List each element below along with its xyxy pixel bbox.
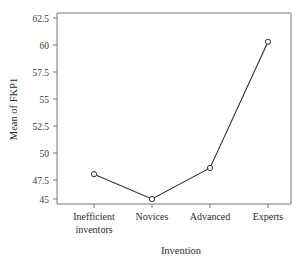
y-tick-label-2: 50 (40, 149, 50, 159)
x-tick-label-2: Advanced (190, 211, 231, 222)
x-tick-label-1: Novices (136, 211, 169, 222)
x-tick-label-3: Experts (253, 211, 284, 222)
data-point-2 (207, 165, 212, 170)
x-axis-tick-labels: Inefficient inventors Novices Advanced E… (73, 211, 283, 235)
y-axis-title: Mean of FKP1 (8, 78, 19, 140)
x-tick-label-0-line-1: inventors (75, 224, 112, 235)
y-axis-tick-labels: 62.5 60 57.5 55 52.5 50 47.5 45 (32, 14, 49, 205)
series-markers (91, 39, 270, 201)
y-tick-label-0: 45 (40, 195, 50, 205)
x-axis-title: Invention (161, 245, 202, 256)
y-tick-label-7: 62.5 (32, 14, 49, 24)
chart-figure: 62.5 60 57.5 55 52.5 50 47.5 45 Mean of … (0, 0, 305, 263)
data-series-mean-of-fkp1 (91, 39, 270, 201)
data-point-3 (265, 39, 270, 44)
x-axis-ticks (94, 204, 268, 208)
series-line (94, 42, 268, 199)
y-tick-label-5: 57.5 (32, 68, 49, 78)
y-tick-label-4: 55 (40, 95, 50, 105)
data-point-1 (149, 196, 154, 201)
line-chart: 62.5 60 57.5 55 52.5 50 47.5 45 Mean of … (0, 0, 305, 263)
y-axis-ticks (53, 18, 57, 199)
data-point-0 (91, 172, 96, 177)
y-tick-label-3: 52.5 (32, 122, 49, 132)
x-tick-label-0-line-0: Inefficient (73, 211, 115, 222)
y-tick-label-6: 60 (40, 41, 50, 51)
y-tick-label-1: 47.5 (32, 176, 49, 186)
